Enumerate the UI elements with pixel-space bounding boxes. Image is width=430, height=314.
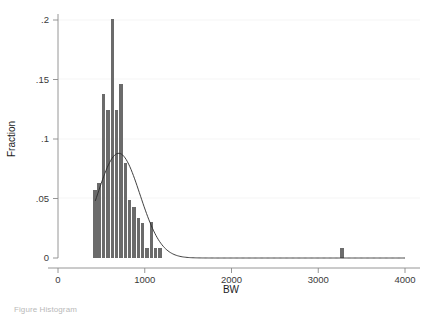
figure-caption: Figure Histogram xyxy=(14,305,77,314)
y-tick-label: .2 xyxy=(41,14,49,25)
histogram-bar xyxy=(128,200,131,258)
y-tick-label: .15 xyxy=(36,74,49,85)
y-tick-label: 0 xyxy=(44,252,49,263)
histogram-bar xyxy=(340,248,343,258)
histogram-bar xyxy=(132,207,135,258)
histogram-bar xyxy=(106,110,109,258)
chart-background xyxy=(0,0,430,314)
histogram-bar xyxy=(137,218,140,258)
y-tick-label: .1 xyxy=(41,133,49,144)
histogram-bar xyxy=(158,248,161,258)
histogram-bar xyxy=(141,223,144,258)
x-tick-label: 1000 xyxy=(134,274,155,285)
histogram-bar xyxy=(115,110,118,258)
figure-root: 0.05.1.15.2 Fraction 01000200030004000 B… xyxy=(0,0,430,314)
histogram-bar xyxy=(111,19,114,258)
figure-caption-strip: Figure Histogram xyxy=(0,305,430,314)
y-tick-label: .05 xyxy=(36,193,49,204)
histogram-bar xyxy=(119,84,122,258)
histogram-bar xyxy=(124,163,127,258)
x-tick-label: 4000 xyxy=(394,274,415,285)
x-tick-label: 0 xyxy=(55,274,60,285)
histogram-chart: 0.05.1.15.2 Fraction 01000200030004000 B… xyxy=(0,0,430,314)
histogram-bar xyxy=(154,248,157,258)
x-axis-title: BW xyxy=(223,284,240,295)
histogram-bar xyxy=(93,190,96,258)
y-axis-title: Fraction xyxy=(6,121,17,157)
histogram-bar xyxy=(145,248,148,258)
x-tick-label: 3000 xyxy=(308,274,329,285)
